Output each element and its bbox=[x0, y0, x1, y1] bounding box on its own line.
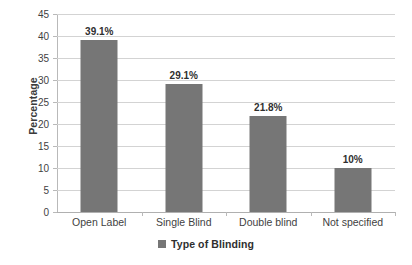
x-axis-tick-labels: Open LabelSingle BlindDouble blindNot sp… bbox=[57, 216, 395, 234]
y-axis-tick-label: 20 bbox=[9, 119, 49, 130]
y-axis-tick-label: 30 bbox=[9, 75, 49, 86]
y-axis-tick-mark bbox=[53, 14, 57, 15]
y-axis-tick-label: 45 bbox=[9, 9, 49, 20]
y-axis-tick-mark bbox=[53, 212, 57, 213]
bar-value-label: 39.1% bbox=[85, 26, 113, 37]
y-axis-tick-mark bbox=[53, 36, 57, 37]
legend-swatch-icon bbox=[158, 240, 166, 248]
plot-area: 39.1%29.1%21.8%10% bbox=[57, 14, 395, 212]
bar-value-label: 21.8% bbox=[254, 102, 282, 113]
legend-label: Type of Blinding bbox=[171, 238, 254, 250]
x-axis-tick-label: Open Label bbox=[72, 216, 126, 228]
bar[interactable] bbox=[81, 40, 118, 212]
bar-chart-figure: Percentage 051015202530354045 39.1%29.1%… bbox=[0, 0, 412, 265]
chart-legend: Type of Blinding bbox=[0, 238, 412, 250]
y-axis-tick-mark bbox=[53, 80, 57, 81]
x-axis-tick-label: Not specified bbox=[322, 216, 383, 228]
bar[interactable] bbox=[250, 116, 287, 212]
y-axis-tick-mark bbox=[53, 102, 57, 103]
x-axis-tick-label: Double blind bbox=[239, 216, 297, 228]
y-axis-tick-mark bbox=[53, 124, 57, 125]
y-axis-tick-label: 15 bbox=[9, 141, 49, 152]
y-axis-tick-mark bbox=[53, 58, 57, 59]
bar-value-label: 29.1% bbox=[170, 70, 198, 81]
bar-group: 29.1% bbox=[142, 14, 227, 212]
y-axis-tick-label: 25 bbox=[9, 97, 49, 108]
y-axis-tick-mark bbox=[53, 168, 57, 169]
y-axis-tick-mark bbox=[53, 190, 57, 191]
bar-value-label: 10% bbox=[343, 154, 363, 165]
bar-group: 10% bbox=[311, 14, 396, 212]
bar-group: 39.1% bbox=[57, 14, 142, 212]
bar[interactable] bbox=[165, 84, 202, 212]
y-axis-tick-label: 35 bbox=[9, 53, 49, 64]
y-axis-tick-label: 10 bbox=[9, 163, 49, 174]
y-axis-tick-mark bbox=[53, 146, 57, 147]
bar-group: 21.8% bbox=[226, 14, 311, 212]
x-axis-tick-label: Single Blind bbox=[156, 216, 211, 228]
y-axis-tick-label: 5 bbox=[9, 185, 49, 196]
y-axis-tick-label: 40 bbox=[9, 31, 49, 42]
y-axis-tick-label: 0 bbox=[9, 207, 49, 218]
y-axis-tick-labels: 051015202530354045 bbox=[0, 14, 49, 212]
bar[interactable] bbox=[334, 168, 371, 212]
x-axis-tick-mark bbox=[395, 212, 396, 216]
